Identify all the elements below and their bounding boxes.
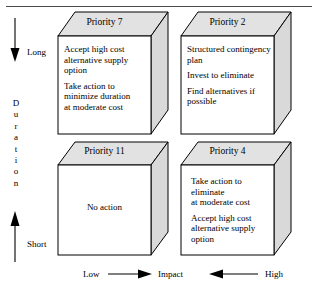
p2-line2: plan	[187, 55, 203, 65]
p7-line1: Accept high cost	[64, 44, 124, 54]
axis-label-duration: D u r a t i o n	[8, 98, 24, 189]
axis-label-high: High	[265, 269, 283, 279]
cell-body-priority-7-action-2: Take action to minimize duration at mode…	[64, 81, 152, 113]
duration-letter-5: i	[8, 155, 24, 166]
p7-line4: Take action to	[64, 81, 115, 91]
p4-line4: Accept high cost	[191, 213, 251, 223]
cell-body-priority-4-action-1: Take action to eliminate at moderate cos…	[191, 176, 277, 208]
p7-line2: alternative supply	[64, 55, 128, 65]
p7-line3: option	[64, 65, 87, 75]
cell-body-priority-11: No action	[58, 202, 151, 213]
cell-body-priority-4: Take action to eliminate at moderate cos…	[191, 176, 277, 245]
cell-body-priority-7-action-1: Accept high cost alternative supply opti…	[64, 44, 152, 76]
priority-matrix-diagram: Priority 7 Priority 2 Priority 11 Priori…	[0, 0, 318, 292]
cell-title-priority-4: Priority 4	[181, 146, 274, 157]
p4-line1: Take action to	[191, 176, 242, 186]
p2-line3: Invest to eliminate	[187, 70, 254, 80]
cell-title-priority-7: Priority 7	[58, 17, 151, 28]
arrow-down-icon	[11, 18, 20, 62]
cell-body-priority-4-action-2: Accept high cost alternative supply opti…	[191, 213, 277, 245]
cell-body-priority-2-action-2: Invest to eliminate	[187, 70, 279, 81]
p4-line2: eliminate	[191, 187, 225, 197]
cell-body-priority-2: Structured contingency plan Invest to el…	[187, 44, 279, 107]
axis-label-long: Long	[27, 47, 46, 57]
p4-line5: alternative supply	[191, 223, 255, 233]
p2-line1: Structured contingency	[187, 44, 271, 54]
duration-letter-2: r	[8, 121, 24, 132]
p7-line5: minimize duration	[64, 91, 130, 101]
p4-line3: at moderate cost	[191, 197, 250, 207]
arrow-up-icon	[11, 211, 20, 262]
arrow-right-icon	[108, 270, 152, 279]
duration-letter-4: t	[8, 144, 24, 155]
p7-line6: at moderate cost	[64, 102, 123, 112]
duration-letter-3: a	[8, 132, 24, 143]
axis-label-low: Low	[83, 269, 100, 279]
cell-body-priority-2-action-1: Structured contingency plan	[187, 44, 279, 65]
duration-letter-6: o	[8, 166, 24, 177]
arrow-left-icon	[209, 270, 258, 279]
duration-letter-1: u	[8, 109, 24, 120]
p2-line5: possible	[187, 96, 217, 106]
p2-line4: Find alternatives if	[187, 86, 255, 96]
cell-body-priority-2-action-3: Find alternatives if possible	[187, 86, 279, 107]
cell-title-priority-2: Priority 2	[181, 17, 274, 28]
duration-letter-7: n	[8, 178, 24, 189]
box-priority-11	[58, 142, 168, 255]
cell-title-priority-11: Priority 11	[58, 146, 151, 157]
axis-label-impact: Impact	[158, 269, 183, 279]
cell-body-priority-11-action-1: No action	[58, 202, 151, 213]
cell-body-priority-7: Accept high cost alternative supply opti…	[64, 44, 152, 113]
p4-line6: option	[191, 234, 214, 244]
axis-label-short: Short	[27, 239, 47, 249]
duration-letter-0: D	[8, 98, 24, 109]
